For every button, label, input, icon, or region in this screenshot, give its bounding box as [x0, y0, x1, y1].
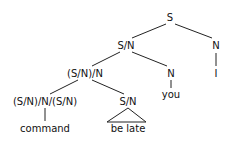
edge-sn-snn	[92, 52, 120, 66]
leaf-command: command	[20, 124, 70, 134]
node-s-n-lower: S/N	[119, 97, 136, 107]
edge-sn-n	[132, 52, 167, 66]
leaf-i: I	[215, 69, 218, 79]
triangle-subtree	[107, 108, 146, 122]
node-s-n: S/N	[117, 41, 134, 51]
node-s: S	[167, 13, 173, 23]
edge-snn-verb	[50, 80, 78, 94]
edge-s-n	[175, 24, 212, 38]
edge-s-sn	[132, 24, 166, 38]
leaf-be-late: be late	[111, 124, 146, 134]
node-n-you: N	[167, 69, 174, 79]
tree-edges	[0, 0, 228, 141]
edge-snn-sn	[92, 80, 124, 94]
node-sn-n: (S/N)/N	[67, 69, 103, 79]
leaf-you: you	[162, 90, 180, 100]
node-n-right: N	[212, 41, 219, 51]
node-verb-category: (S/N)/N/(S/N)	[13, 97, 77, 107]
